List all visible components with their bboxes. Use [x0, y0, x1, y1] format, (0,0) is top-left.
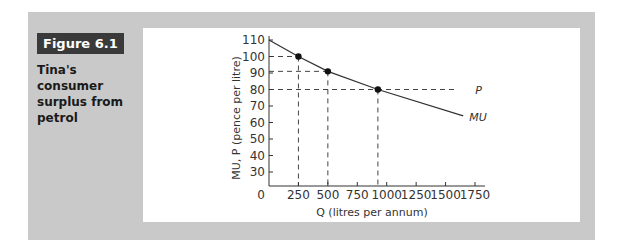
data-point	[295, 53, 301, 59]
x-tick-label: 750	[346, 188, 369, 202]
y-tick-label: 70	[250, 99, 265, 113]
y-tick-label: 100	[242, 50, 265, 64]
x-tick-label: 250	[287, 188, 310, 202]
origin-label: 0	[257, 188, 265, 202]
y-tick-label: 30	[250, 165, 265, 179]
y-tick-label: 60	[250, 116, 265, 130]
x-tick-label: 1500	[430, 188, 461, 202]
y-tick-label: 90	[250, 66, 265, 80]
y-tick-label: 50	[250, 132, 265, 146]
y-axis-label: MU, P (pence per litre)	[230, 56, 243, 180]
mu-label: MU	[469, 111, 487, 124]
x-tick-label: 500	[316, 188, 339, 202]
y-tick-label: 110	[242, 33, 265, 47]
chart-svg: P 30405060708090100110250500750100012501…	[0, 0, 622, 252]
x-tick-label: 1000	[371, 188, 402, 202]
y-tick-label: 80	[250, 83, 265, 97]
price-label: P	[475, 84, 482, 97]
data-point	[325, 68, 331, 74]
x-axis-label: Q (litres per annum)	[316, 206, 428, 219]
x-tick-label: 1750	[460, 188, 491, 202]
x-tick-label: 1250	[401, 188, 432, 202]
data-point	[375, 86, 381, 92]
y-tick-label: 40	[250, 149, 265, 163]
